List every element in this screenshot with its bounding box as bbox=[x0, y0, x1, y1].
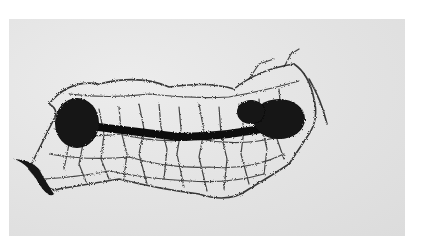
photograph bbox=[9, 19, 405, 236]
branching-network-figure bbox=[9, 19, 405, 236]
